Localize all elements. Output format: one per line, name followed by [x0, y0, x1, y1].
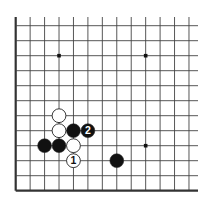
black-stone: [38, 139, 52, 153]
star-point: [144, 54, 148, 58]
stones: 21: [38, 109, 124, 168]
black-stone: [52, 139, 66, 153]
black-stone: [110, 154, 124, 168]
black-stone-icon: [110, 154, 124, 168]
white-stone-icon: [52, 124, 66, 138]
white-stone: [52, 124, 66, 138]
go-board: 21: [0, 0, 208, 205]
white-stone-move-1: 1: [67, 154, 81, 168]
star-point: [144, 144, 148, 148]
black-stone-move-2: 2: [81, 124, 95, 138]
white-stone: [52, 109, 66, 123]
star-point: [57, 54, 61, 58]
white-stone-icon: [67, 139, 81, 153]
black-stone: [67, 124, 81, 138]
black-stone-icon: [38, 139, 52, 153]
move-number-label: 1: [71, 154, 77, 166]
black-stone-icon: [52, 139, 66, 153]
black-stone-icon: [67, 124, 81, 138]
grid-lines: [16, 17, 198, 191]
move-number-label: 2: [85, 124, 91, 136]
white-stone: [67, 139, 81, 153]
white-stone-icon: [52, 109, 66, 123]
